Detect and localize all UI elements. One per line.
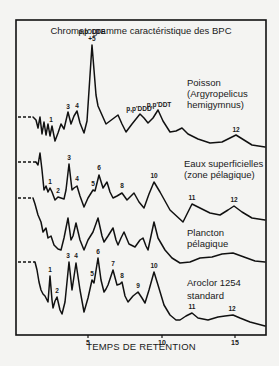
chromatogram-chart: Chromatogramme caractéristique des BPC 5… [0, 0, 279, 366]
x-tick-label: 15 [231, 339, 239, 346]
sample-label: Plancton [187, 227, 224, 238]
peak-label: 12 [230, 196, 238, 203]
peak-label: 2 [55, 287, 59, 294]
peak-label: 10 [150, 262, 158, 269]
peak-label: 8 [120, 182, 124, 189]
chromatogram-traces: 134p,p' DDE+5p,p'DDDp,p'DDT12Poisson(Arg… [18, 28, 265, 326]
peak-label: 1 [49, 116, 53, 123]
peak-label: 7 [111, 260, 115, 267]
sample-label: Poisson [187, 77, 221, 88]
peak-label: 6 [96, 248, 100, 255]
peak-label: 11 [189, 194, 196, 201]
trace-4: 123456789101112Aroclor 1254standard [18, 248, 265, 326]
trace-2: 1234568101112Eaux superficielles(zone pé… [18, 153, 265, 222]
peak-label: 4 [74, 252, 78, 259]
sample-label: pélagique [187, 238, 228, 249]
peak-label: 4 [75, 102, 79, 109]
peak-label: 5 [90, 270, 94, 277]
peak-label: 3 [66, 103, 70, 110]
peak-label: 3 [67, 154, 71, 161]
peak-label: 10 [150, 172, 158, 179]
peak-label: 5 [91, 180, 95, 187]
peak-label: 12 [232, 126, 240, 133]
peak-label: 2 [56, 187, 60, 194]
sample-label: hemigymnus) [187, 99, 244, 110]
peak-label: 1 [48, 178, 52, 185]
peak-label: 1 [48, 266, 52, 273]
peak-label: +5 [88, 35, 96, 42]
peak-label: 4 [75, 175, 79, 182]
trace-3: Planctonpélagique [18, 198, 265, 263]
peak-label: 8 [120, 272, 124, 279]
peak-label: 12 [228, 305, 236, 312]
peak-label: 3 [66, 252, 70, 259]
peak-label: 11 [189, 303, 196, 310]
x-axis-label: TEMPS DE RETENTION [86, 341, 196, 352]
chromatogram-figure: Chromatogramme caractéristique des BPC 5… [0, 0, 279, 366]
sample-label: Aroclor 1254 [187, 277, 241, 288]
peak-label: 6 [97, 164, 101, 171]
sample-label: (Argyropelicus [187, 88, 248, 99]
sample-label: (zone pélagique) [184, 169, 255, 180]
sample-label: Eaux superficielles [184, 158, 263, 169]
sample-label: standard [187, 290, 224, 301]
peak-label: 9 [136, 282, 140, 289]
trace-1: 134p,p' DDE+5p,p'DDDp,p'DDT12Poisson(Arg… [18, 28, 265, 147]
peak-label: p,p'DDT [147, 101, 172, 109]
